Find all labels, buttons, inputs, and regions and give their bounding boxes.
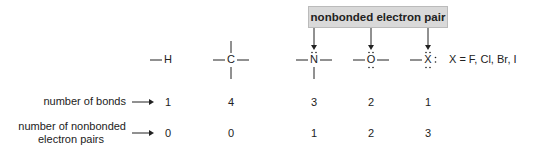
- lone-pairs-x: 3: [418, 127, 438, 139]
- bonds-o: 2: [361, 96, 381, 108]
- bonds-h: 1: [158, 96, 178, 108]
- lone-pairs-label-line1: number of nonbonded: [0, 120, 126, 133]
- bonds-row-label: number of bonds: [0, 95, 126, 108]
- lone-pairs-label-line2: electron pairs: [0, 133, 126, 146]
- atom-n: N: [308, 53, 320, 65]
- halogen-note: X = F, Cl, Br, I: [449, 53, 517, 65]
- atom-h: H: [162, 53, 174, 65]
- bonds-x: 1: [418, 96, 438, 108]
- atom-o: O: [365, 53, 377, 65]
- atom-c: C: [225, 53, 237, 65]
- lone-pairs-h: 0: [158, 127, 178, 139]
- lone-pairs-c: 0: [221, 127, 241, 139]
- lone-pairs-row-label: number of nonbonded electron pairs: [0, 120, 126, 146]
- bonds-n: 3: [304, 96, 324, 108]
- nonbonded-pair-callout: nonbonded electron pair: [308, 6, 448, 28]
- bonds-c: 4: [221, 96, 241, 108]
- lone-pairs-o: 2: [361, 127, 381, 139]
- atom-x: X: [422, 53, 434, 65]
- lone-pairs-n: 1: [304, 127, 324, 139]
